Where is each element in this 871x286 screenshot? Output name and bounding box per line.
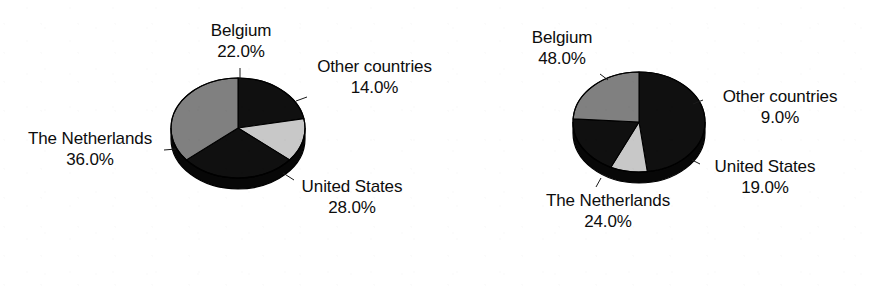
pie-slice-label-value: 28.0%	[277, 197, 427, 218]
pie-slice-label-name: United States	[690, 156, 840, 177]
chart-panel-left: Belgium 22%Other countries 14%United Sta…	[0, 0, 440, 286]
pie-slice-label-value: 22.0%	[182, 41, 300, 62]
pie-slice-label-name: Belgium	[503, 27, 621, 48]
pie-slice-label: United States28.0%	[277, 176, 427, 218]
pie-slice-label: The Netherlands36.0%	[2, 128, 178, 170]
pie-slice-label-name: Belgium	[182, 20, 300, 41]
pie-slice-label-value: 36.0%	[2, 149, 178, 170]
pie-slice-label-name: Other countries	[701, 86, 859, 107]
pie-chart-figure: Belgium 22%Other countries 14%United Sta…	[0, 0, 871, 286]
pie-slice-label: Other countries9.0%	[701, 86, 859, 128]
pie-slice-label: Belgium48.0%	[503, 27, 621, 69]
pie-slice-label-value: 14.0%	[297, 77, 452, 98]
pie-slice-label-name: Other countries	[297, 56, 452, 77]
leader-line	[596, 178, 601, 187]
pie-slice-label-value: 48.0%	[503, 48, 621, 69]
pie-slice-label-value: 24.0%	[520, 211, 696, 232]
pie-slice-label-value: 19.0%	[690, 177, 840, 198]
pie-slice-label-name: The Netherlands	[2, 128, 178, 149]
pie-slice-label: Other countries14.0%	[297, 56, 452, 98]
leader-line	[600, 74, 608, 80]
pie-slice-label-name: United States	[277, 176, 427, 197]
chart-panel-right: Belgium 48%Other countries 9%United Stat…	[440, 0, 871, 286]
pie-slice-label-name: The Netherlands	[520, 190, 696, 211]
pie-slice-label: The Netherlands24.0%	[520, 190, 696, 232]
pie-slice-label: Belgium22.0%	[182, 20, 300, 62]
pie-slice-label: United States19.0%	[690, 156, 840, 198]
pie-slice-label-value: 9.0%	[701, 107, 859, 128]
